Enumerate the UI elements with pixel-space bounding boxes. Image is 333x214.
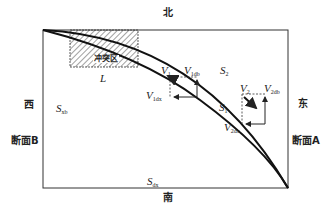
label-sdx: Sdx	[147, 176, 159, 188]
diagram-canvas	[0, 0, 333, 214]
label-v1db: V1db	[184, 65, 200, 77]
label-section-b: 断面B	[11, 136, 39, 146]
label-v2db: V2db	[264, 83, 280, 95]
label-section-a: 断面A	[292, 136, 320, 146]
label-east: 东	[298, 99, 308, 109]
label-v1: V1	[161, 65, 171, 77]
label-v1dx: V1dx	[146, 90, 162, 102]
label-conflict-zone: 冲突区	[93, 55, 119, 63]
label-s1: S1	[219, 102, 228, 114]
label-south: 南	[163, 193, 173, 203]
label-length-l: L	[100, 73, 106, 84]
label-sxb: Sxb	[56, 103, 68, 115]
label-v2: V2	[240, 83, 250, 95]
label-s2: S2	[220, 65, 229, 77]
label-v2dx: V2dx	[224, 122, 240, 134]
label-west: 西	[24, 100, 34, 110]
v2-arrow	[244, 97, 256, 108]
label-north: 北	[163, 8, 173, 18]
